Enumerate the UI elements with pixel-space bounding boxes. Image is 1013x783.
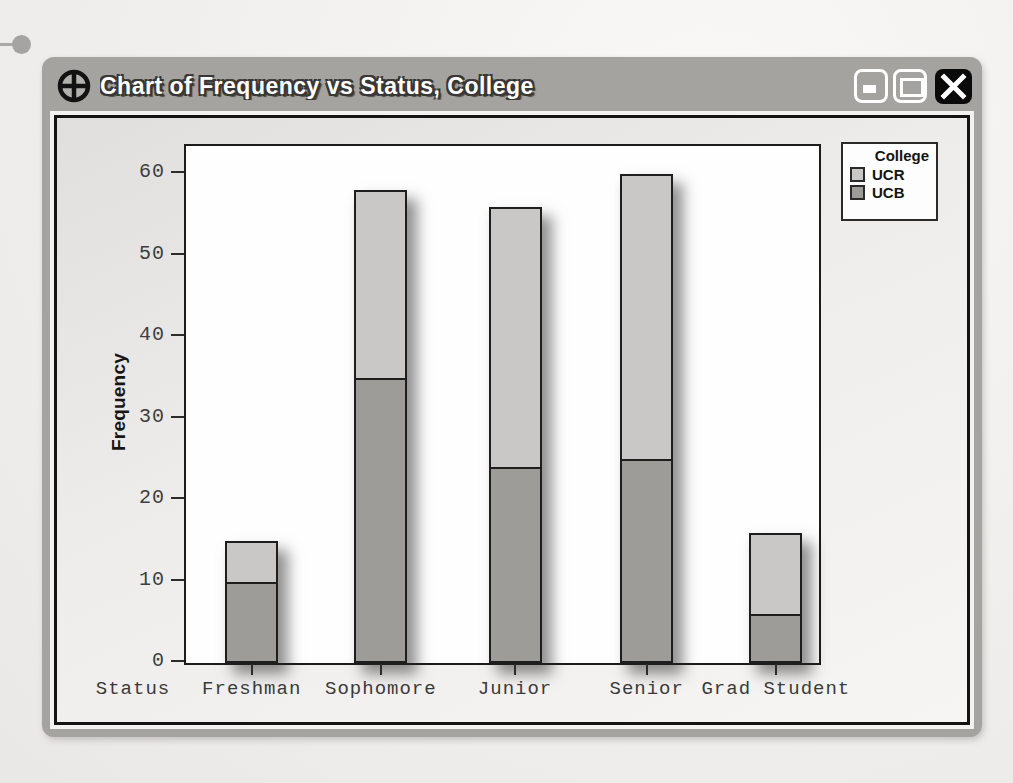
page-margin-bullet-icon bbox=[12, 35, 31, 54]
legend-title: College bbox=[843, 147, 936, 164]
y-axis-tick bbox=[171, 334, 184, 336]
chart-window: Chart of Frequency vs Status, College Fr… bbox=[42, 57, 982, 737]
window-titlebar[interactable]: Chart of Frequency vs Status, College bbox=[42, 57, 982, 115]
bar-segment-ucb bbox=[489, 467, 542, 663]
stacked-bar-sophomore bbox=[354, 190, 407, 663]
legend-entry-label: UCB bbox=[872, 185, 905, 200]
chart-window-icon bbox=[56, 68, 92, 104]
window-title: Chart of Frequency vs Status, College bbox=[100, 73, 854, 100]
minimize-icon bbox=[863, 85, 876, 93]
close-button[interactable] bbox=[935, 69, 972, 104]
legend: College UCRUCB bbox=[841, 142, 938, 221]
y-axis-tick bbox=[171, 253, 184, 255]
y-axis-tick-label: 0 bbox=[99, 649, 165, 672]
y-axis-tick bbox=[171, 171, 184, 173]
bar-segment-ucr bbox=[620, 174, 673, 461]
close-icon bbox=[939, 73, 968, 100]
y-axis-tick-label: 10 bbox=[99, 568, 165, 591]
stacked-bar-freshman bbox=[225, 541, 278, 663]
bar-segment-ucr bbox=[749, 533, 802, 617]
legend-entry-label: UCR bbox=[872, 167, 905, 182]
stacked-bar-junior bbox=[489, 207, 542, 663]
maximize-icon bbox=[900, 78, 924, 97]
x-axis-tick bbox=[514, 664, 516, 675]
x-axis-tick bbox=[380, 664, 382, 675]
x-axis-tick bbox=[775, 664, 777, 675]
bar-segment-ucr bbox=[489, 207, 542, 470]
bar-segment-ucb bbox=[354, 378, 407, 663]
bar-segment-ucb bbox=[620, 459, 673, 663]
legend-entry-ucb: UCB bbox=[843, 185, 936, 200]
legend-entry-ucr: UCR bbox=[843, 167, 936, 182]
chart-area: Frequency Status College UCRUCB 01020304… bbox=[57, 118, 967, 722]
bar-segment-ucr bbox=[354, 190, 407, 379]
bar-segment-ucb bbox=[225, 582, 278, 664]
x-axis-category-label: Grad Student bbox=[691, 678, 861, 700]
x-axis-tick bbox=[646, 664, 648, 675]
maximize-button[interactable] bbox=[893, 69, 927, 103]
y-axis-tick-label: 40 bbox=[99, 323, 165, 346]
y-axis-tick-label: 60 bbox=[99, 160, 165, 183]
bar-segment-ucb bbox=[749, 614, 802, 663]
x-axis-tick bbox=[251, 664, 253, 675]
window-controls bbox=[854, 69, 972, 104]
y-axis-tick bbox=[171, 497, 184, 499]
stacked-bar-grad-student bbox=[749, 533, 802, 663]
legend-swatch-ucr bbox=[850, 167, 865, 182]
bar-segment-ucr bbox=[225, 541, 278, 584]
legend-entries: UCRUCB bbox=[843, 167, 936, 200]
y-axis-tick-label: 20 bbox=[99, 486, 165, 509]
y-axis-tick bbox=[171, 579, 184, 581]
stacked-bar-senior bbox=[620, 174, 673, 663]
y-axis-tick bbox=[171, 660, 184, 662]
y-axis-tick-label: 50 bbox=[99, 242, 165, 265]
minimize-button[interactable] bbox=[854, 69, 888, 103]
legend-swatch-ucb bbox=[850, 185, 865, 200]
y-axis-tick bbox=[171, 416, 184, 418]
y-axis-tick-label: 30 bbox=[99, 405, 165, 428]
window-content: Frequency Status College UCRUCB 01020304… bbox=[54, 115, 970, 725]
